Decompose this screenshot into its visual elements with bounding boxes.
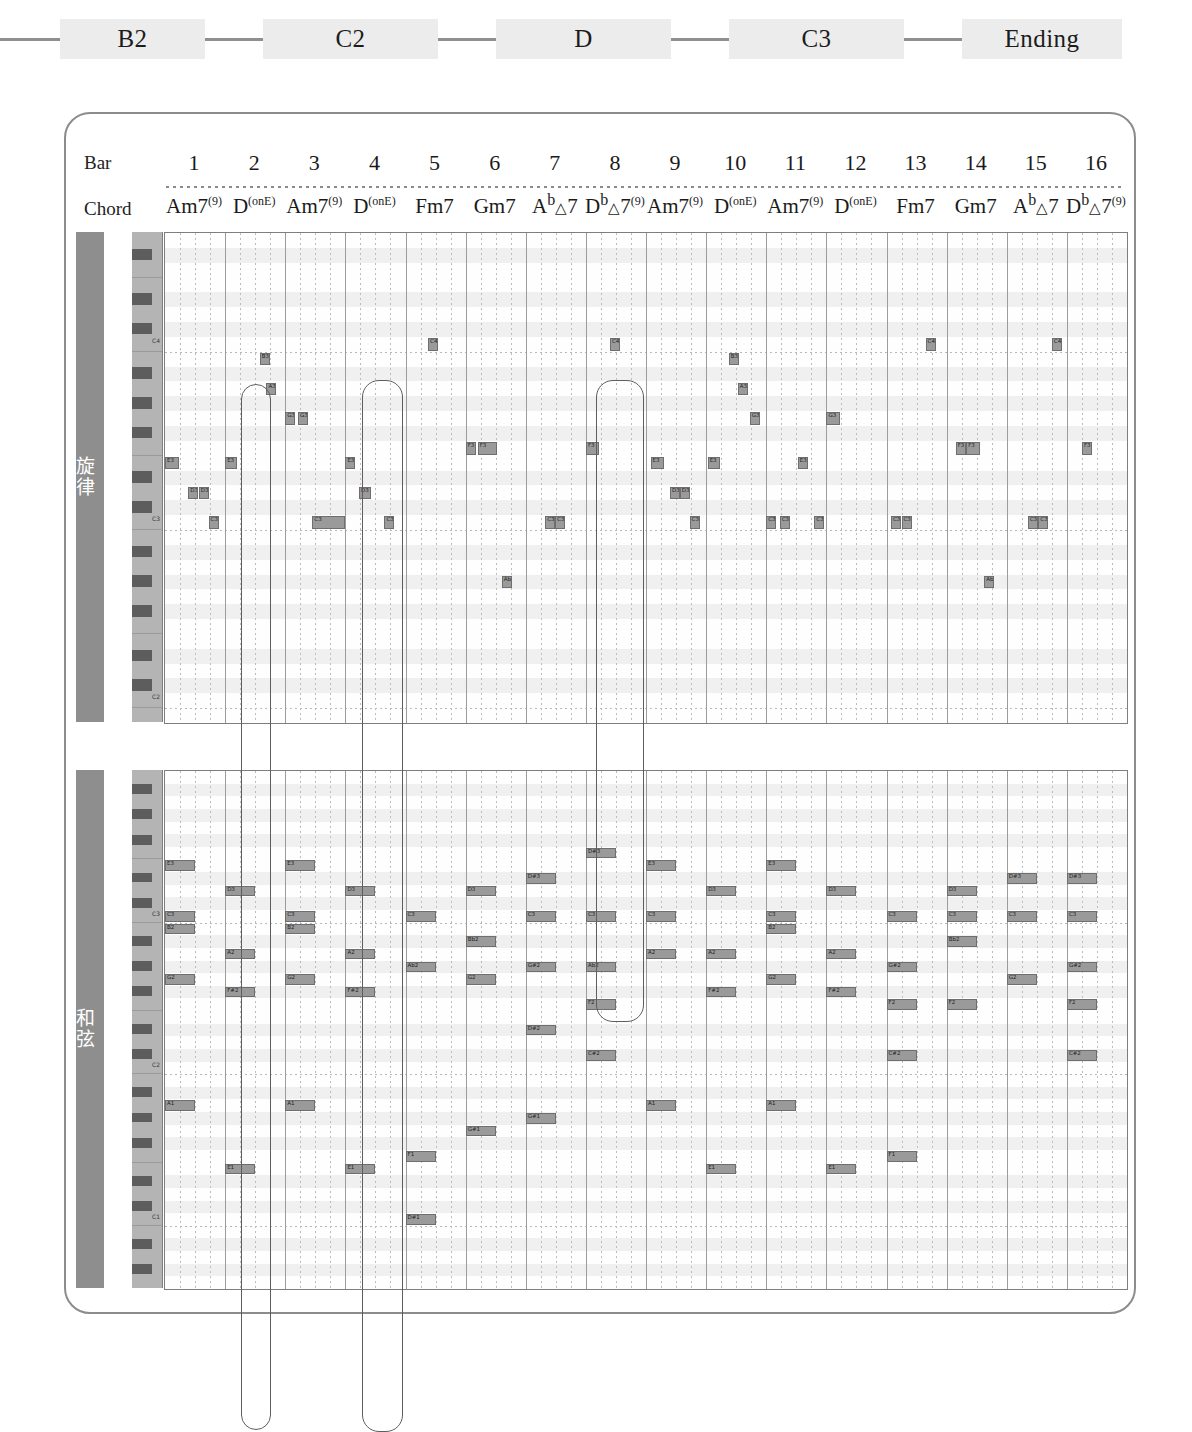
piano-black-key[interactable] <box>132 605 152 617</box>
note-block[interactable]: C#2 <box>1067 1050 1097 1061</box>
note-block[interactable]: C#2 <box>586 1050 616 1061</box>
note-block[interactable]: E1 <box>345 1164 375 1175</box>
piano-black-key[interactable] <box>132 546 152 558</box>
note-block[interactable]: E3 <box>651 457 665 469</box>
note-block[interactable]: D3 <box>826 886 856 897</box>
piano-black-key[interactable] <box>132 249 152 261</box>
note-block[interactable]: E1 <box>225 1164 255 1175</box>
note-block[interactable]: G2 <box>766 974 796 985</box>
note-block[interactable]: C#2 <box>887 1050 917 1061</box>
note-block[interactable]: E3 <box>165 860 195 871</box>
note-block[interactable]: A2 <box>345 949 375 960</box>
note-block[interactable]: Ab2 <box>586 962 616 973</box>
note-block[interactable]: A1 <box>646 1100 676 1111</box>
note-block[interactable]: C3 <box>891 516 901 528</box>
piano-black-key[interactable] <box>132 293 152 305</box>
note-block[interactable]: E3 <box>798 457 808 469</box>
note-block[interactable]: D#3 <box>1067 873 1097 884</box>
note-block[interactable]: Ab2 <box>984 576 994 588</box>
note-block[interactable]: Ab2 <box>406 962 436 973</box>
piano-black-key[interactable] <box>132 650 152 662</box>
note-block[interactable]: F#2 <box>706 987 736 998</box>
note-block[interactable]: C3 <box>165 911 195 922</box>
note-block[interactable]: G3 <box>298 412 308 424</box>
note-block[interactable]: D3 <box>188 487 198 499</box>
piano-black-key[interactable] <box>132 427 152 439</box>
note-block[interactable]: G3 <box>750 412 760 424</box>
note-block[interactable]: C3 <box>555 516 565 528</box>
note-block[interactable]: G#2 <box>887 962 917 973</box>
note-block[interactable]: C4 <box>610 338 620 350</box>
section-chip-b2[interactable]: B2 <box>60 19 205 59</box>
piano-black-key[interactable] <box>132 1113 152 1123</box>
note-block[interactable]: F2 <box>947 999 977 1010</box>
note-block[interactable]: F2 <box>1067 999 1097 1010</box>
panel-tab-melody[interactable]: 旋律 <box>76 232 104 722</box>
piano-black-key[interactable] <box>132 873 152 883</box>
piano-black-key[interactable] <box>132 784 152 794</box>
note-block[interactable]: G2 <box>466 974 496 985</box>
note-block[interactable]: A1 <box>766 1100 796 1111</box>
note-block[interactable]: C3 <box>780 516 790 528</box>
note-block[interactable]: F2 <box>586 999 616 1010</box>
note-block[interactable]: A1 <box>285 1100 315 1111</box>
note-block[interactable]: C3 <box>646 911 676 922</box>
piano-black-key[interactable] <box>132 471 152 483</box>
note-block[interactable]: B2 <box>285 924 315 935</box>
section-chip-d[interactable]: D <box>496 19 671 59</box>
note-block[interactable]: C3 <box>586 911 616 922</box>
note-block[interactable]: B3 <box>260 353 270 365</box>
piano-black-key[interactable] <box>132 679 152 691</box>
note-block[interactable]: G3 <box>826 412 840 424</box>
note-block[interactable]: C3 <box>902 516 912 528</box>
note-block[interactable]: A2 <box>225 949 255 960</box>
section-chip-c2[interactable]: C2 <box>263 19 438 59</box>
note-block[interactable]: A2 <box>646 949 676 960</box>
section-chip-ending[interactable]: Ending <box>962 19 1122 59</box>
piano-black-key[interactable] <box>132 898 152 908</box>
note-block[interactable]: C3 <box>1038 516 1048 528</box>
note-block[interactable]: F2 <box>887 999 917 1010</box>
piano-roll-chord[interactable]: E3C3B2G2A1D3A2F#2E1E3C3B2G2A1D3A2F#2E1C3… <box>164 770 1128 1290</box>
note-block[interactable]: E3 <box>225 457 237 469</box>
piano-black-key[interactable] <box>132 1201 152 1211</box>
note-block[interactable]: F1 <box>887 1151 917 1162</box>
piano-black-key[interactable] <box>132 1176 152 1186</box>
note-block[interactable]: F3 <box>586 442 600 454</box>
piano-black-key[interactable] <box>132 1087 152 1097</box>
piano-black-key[interactable] <box>132 1024 152 1034</box>
piano-black-key[interactable] <box>132 575 152 587</box>
note-block[interactable]: D3 <box>359 487 371 499</box>
note-block[interactable]: F3 <box>966 442 980 454</box>
note-block[interactable]: Bb2 <box>466 936 496 947</box>
note-block[interactable]: F3 <box>1082 442 1093 454</box>
piano-black-key[interactable] <box>132 367 152 379</box>
note-block[interactable]: C3 <box>312 516 345 528</box>
note-block[interactable]: B2 <box>165 924 195 935</box>
piano-keybed-chord[interactable]: C1C2C3 <box>132 770 163 1288</box>
note-block[interactable]: C3 <box>947 911 977 922</box>
note-block[interactable]: G#1 <box>526 1113 556 1124</box>
piano-black-key[interactable] <box>132 397 152 409</box>
note-block[interactable]: A2 <box>706 949 736 960</box>
note-block[interactable]: A3 <box>266 383 276 395</box>
note-block[interactable]: G3 <box>285 412 295 424</box>
note-block[interactable]: G#1 <box>466 1126 496 1137</box>
note-block[interactable]: C3 <box>384 516 394 528</box>
piano-black-key[interactable] <box>132 1264 152 1274</box>
note-block[interactable]: D3 <box>947 886 977 897</box>
note-block[interactable]: C3 <box>406 911 436 922</box>
panel-tab-chord[interactable]: 和弦 <box>76 770 104 1288</box>
note-block[interactable]: D#3 <box>586 848 616 859</box>
note-block[interactable]: C3 <box>545 516 555 528</box>
note-block[interactable]: C3 <box>1007 911 1037 922</box>
piano-black-key[interactable] <box>132 809 152 819</box>
note-block[interactable]: D3 <box>680 487 690 499</box>
note-block[interactable]: B3 <box>729 353 739 365</box>
piano-black-key[interactable] <box>132 501 152 513</box>
note-block[interactable]: C3 <box>285 911 315 922</box>
note-block[interactable]: D3 <box>670 487 680 499</box>
piano-black-key[interactable] <box>132 1239 152 1249</box>
note-block[interactable]: E3 <box>646 860 676 871</box>
note-block[interactable]: Ab2 <box>502 576 512 588</box>
